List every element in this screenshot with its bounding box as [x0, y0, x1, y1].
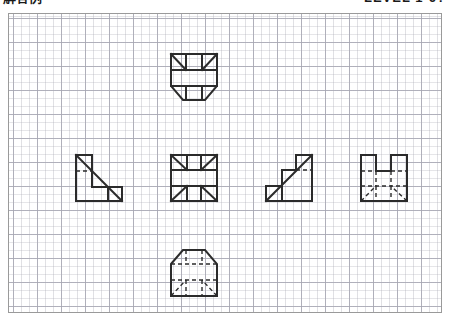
square-four-quadrant-shape[interactable]: [163, 147, 223, 207]
page-header: 解答例 LEVEL 1-6?: [0, 0, 450, 12]
house-pentagon-shape[interactable]: [163, 242, 223, 304]
shield-pentagon-shape[interactable]: [163, 46, 223, 108]
figures-layer: [9, 14, 441, 312]
worksheet-title: 解答例: [3, 0, 43, 4]
diagonal-l-shape[interactable]: [68, 147, 128, 207]
u-notch-shape[interactable]: [353, 147, 413, 207]
staircase-triangle-shape[interactable]: [258, 147, 318, 207]
level-label: LEVEL 1-6?: [364, 0, 446, 4]
grid-canvas[interactable]: [8, 13, 442, 313]
